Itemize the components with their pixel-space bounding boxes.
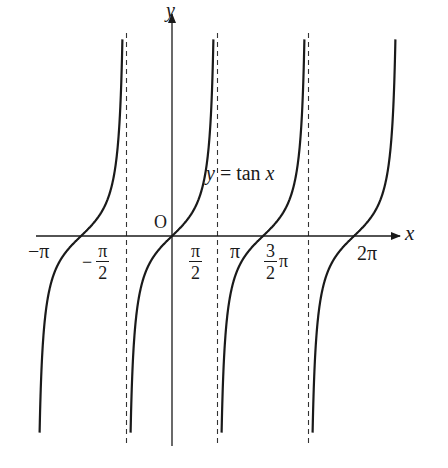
function-label-y: y [206,162,215,184]
function-label-eq: = tan [215,162,266,184]
tick-label-three-halves-pi-symbol: π [279,251,288,272]
tick-label-three-halves-pi: 3 2 π [264,242,288,282]
tick-label-neg-half-pi: − π 2 [82,242,109,282]
x-axis-label: x [405,223,414,244]
y-axis-label: y [166,0,175,20]
tick-label-two-pi: 2π [357,243,377,263]
fraction-3-over-2: 3 2 [264,242,277,282]
fraction-pi-over-2: π 2 [96,242,109,282]
tick-label-neg-half-pi-sign: − [82,252,92,273]
fraction-numerator: π [189,242,202,262]
tick-label-half-pi: π 2 [189,242,202,282]
asymptote-lines [126,33,308,443]
fraction-numerator: 3 [264,242,277,262]
fraction-numerator: π [96,242,109,262]
tick-label-neg-pi: −π [28,241,49,261]
tick-label-pi: π [230,241,240,261]
fraction-denominator: 2 [98,262,107,282]
function-label: y = tan x [206,163,275,183]
fraction-denominator: 2 [266,262,275,282]
tan-chart [0,0,448,468]
function-label-x: x [266,162,275,184]
origin-label: O [154,213,167,231]
fraction-denominator: 2 [191,262,200,282]
fraction-pi-over-2: π 2 [189,242,202,282]
